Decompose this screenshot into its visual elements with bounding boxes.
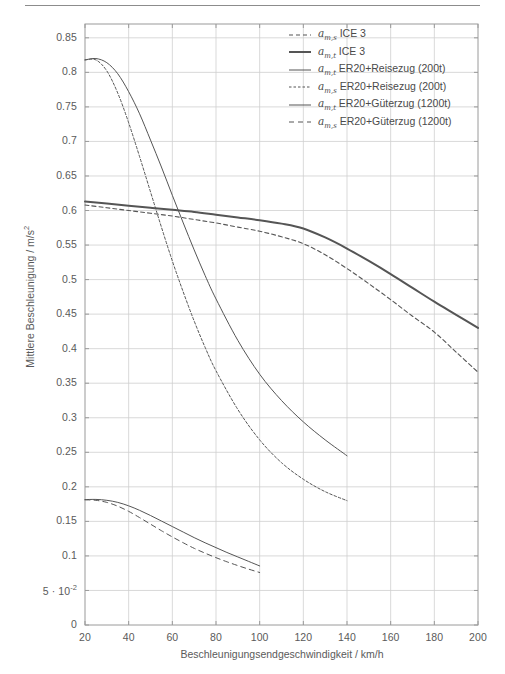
x-axis-label: Beschleunigungsendgeschwindigkeit / km/h	[85, 648, 479, 660]
x-tick-label: 100	[240, 631, 280, 643]
y-tick-label: 0	[20, 618, 77, 630]
y-tick-label: 0.2	[20, 480, 77, 492]
y-tick-label: 0.85	[20, 31, 77, 43]
legend-item-label: am,s ICE 3	[318, 27, 366, 42]
legend-item-label: am,t ICE 3	[318, 45, 365, 60]
y-tick-label: 0.75	[20, 100, 77, 112]
legend-line-sample	[288, 30, 312, 40]
legend-line-sample	[288, 100, 312, 110]
legend-item: am,t ER20+Reisezug (200t)	[288, 61, 451, 79]
legend-item-label: am,s ER20+Reisezug (200t)	[318, 80, 446, 95]
legend-line-sample	[288, 65, 312, 75]
legend-item: am,t ICE 3	[288, 44, 451, 62]
x-tick-label: 160	[371, 631, 411, 643]
x-tick-label: 140	[327, 631, 367, 643]
y-tick-label: 0.3	[20, 411, 77, 423]
x-tick-label: 180	[414, 631, 454, 643]
y-tick-label: 0.7	[20, 134, 77, 146]
y-tick-label: 0.25	[20, 445, 77, 457]
legend-symbol: am,t	[318, 62, 336, 74]
legend-item-label: am,s ER20+Güterzug (1200t)	[318, 115, 451, 130]
data-series	[85, 58, 478, 572]
x-tick-label: 80	[196, 631, 236, 643]
legend-symbol: am,t	[318, 97, 336, 109]
legend-symbol: am,s	[318, 80, 337, 92]
legend-item: am,t ER20+Güterzug (1200t)	[288, 96, 451, 114]
y-tick-label: 5 · 10-2	[20, 583, 77, 597]
x-tick-label: 60	[152, 631, 192, 643]
legend-item: am,s ER20+Reisezug (200t)	[288, 79, 451, 97]
legend-symbol: am,t	[318, 45, 336, 57]
legend-line-sample	[288, 82, 312, 92]
y-axis-label-text: Mittlere Beschleunigung / m/s	[24, 230, 36, 368]
x-tick-label: 40	[109, 631, 149, 643]
series-line	[85, 202, 478, 328]
y-tick-label: 0.15	[20, 514, 77, 526]
x-tick-label: 20	[65, 631, 105, 643]
legend-symbol: am,s	[318, 115, 337, 127]
y-tick-label: 0.65	[20, 169, 77, 181]
x-tick-label: 200	[458, 631, 498, 643]
y-tick-label: 0.1	[20, 549, 77, 561]
legend-item-label: am,t ER20+Reisezug (200t)	[318, 62, 445, 77]
legend-item: am,s ICE 3	[288, 26, 451, 44]
x-tick-label: 120	[283, 631, 323, 643]
y-tick-label: 0.8	[20, 65, 77, 77]
legend-symbol: am,s	[318, 27, 337, 39]
legend-line-sample	[288, 117, 312, 127]
series-line	[85, 205, 478, 372]
legend-line-sample	[288, 47, 312, 57]
chart-figure: 05 · 10-20.10.150.20.250.30.350.40.450.5…	[0, 0, 505, 674]
legend-item: am,s ER20+Güterzug (1200t)	[288, 114, 451, 132]
y-axis-label-exponent: 2	[22, 226, 31, 230]
chart-legend: am,s ICE 3am,t ICE 3am,t ER20+Reisezug (…	[288, 26, 451, 131]
legend-item-label: am,t ER20+Güterzug (1200t)	[318, 97, 451, 112]
y-axis-label: Mittlere Beschleunigung / m/s2	[22, 197, 36, 397]
